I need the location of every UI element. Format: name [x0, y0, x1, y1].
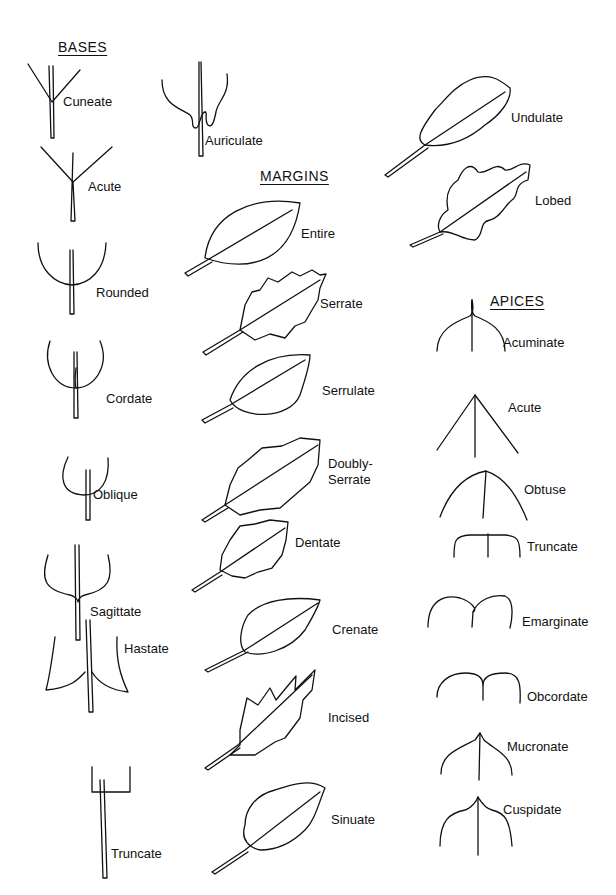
- margin-entire-drawing: [185, 201, 300, 276]
- margin-label-undulate: Undulate: [511, 110, 563, 126]
- margin-incised-drawing: [205, 670, 315, 770]
- apex-acute-drawing: [437, 395, 518, 457]
- base-label-sagittate: Sagittate: [90, 604, 141, 620]
- base-label-cordate: Cordate: [106, 391, 152, 407]
- margin-label-lobed: Lobed: [535, 193, 571, 209]
- margin-label-incised: Incised: [328, 710, 369, 726]
- apex-obtuse-drawing: [440, 471, 527, 520]
- margin-label-entire: Entire: [301, 226, 335, 242]
- margin-label-crenate: Crenate: [332, 622, 378, 638]
- margin-label-sinuate: Sinuate: [331, 812, 375, 828]
- apex-emarginate-drawing: [428, 596, 512, 628]
- apex-label-acuminate: Acuminate: [503, 335, 564, 351]
- margins-header: MARGINS: [260, 168, 329, 184]
- apex-truncate-drawing: [454, 534, 520, 557]
- base-label-acute: Acute: [88, 179, 121, 195]
- base-rounded-drawing: [38, 243, 106, 314]
- bases-header: BASES: [58, 39, 107, 55]
- apex-label-mucronate: Mucronate: [507, 739, 568, 755]
- base-label-auriculate: Auriculate: [205, 133, 263, 149]
- base-sagittate-drawing: [44, 545, 110, 640]
- apex-label-acute: Acute: [508, 400, 541, 416]
- base-label-oblique: Oblique: [93, 487, 138, 503]
- margin-crenate-drawing: [205, 599, 320, 672]
- margin-serrate-drawing: [203, 270, 326, 355]
- margin-sinuate-drawing: [212, 783, 325, 874]
- base-label-rounded: Rounded: [96, 285, 149, 301]
- margin-label-dentate: Dentate: [295, 535, 341, 551]
- margin-label-doubly-serrate: Doubly- Serrate: [328, 456, 373, 488]
- apices-header: APICES: [490, 293, 544, 309]
- margin-label-serrate: Serrate: [320, 296, 363, 312]
- margin-undulate-drawing: [385, 77, 510, 177]
- margin-dentate-drawing: [192, 520, 288, 592]
- base-cordate-drawing: [48, 341, 104, 418]
- apex-label-obtuse: Obtuse: [524, 482, 566, 498]
- margin-doubly-serrate-drawing: [202, 438, 320, 522]
- base-label-hastate: Hastate: [124, 641, 169, 657]
- margin-label-serrulate: Serrulate: [322, 383, 375, 399]
- base-label-cuneate: Cuneate: [63, 94, 112, 110]
- apex-obcordate-drawing: [437, 673, 520, 703]
- margin-serrulate-drawing: [202, 355, 310, 423]
- base-label-truncate: Truncate: [111, 846, 162, 862]
- leaf-drawings: [0, 0, 616, 895]
- apex-label-truncate: Truncate: [527, 539, 578, 555]
- apex-label-cuspidate: Cuspidate: [503, 802, 562, 818]
- apex-label-obcordate: Obcordate: [527, 689, 588, 705]
- apex-label-emarginate: Emarginate: [522, 614, 588, 630]
- base-hastate-drawing: [46, 620, 128, 712]
- apex-cuspidate-drawing: [440, 797, 512, 855]
- apex-mucronate-drawing: [441, 733, 512, 780]
- margin-lobed-drawing: [410, 164, 530, 247]
